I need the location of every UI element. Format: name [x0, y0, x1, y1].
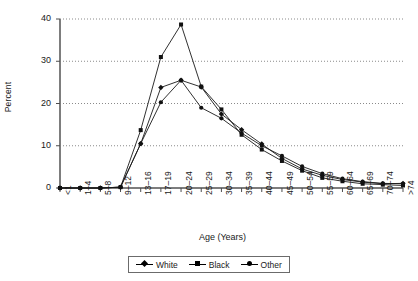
x-axis-tick-label: 13–16	[144, 171, 153, 195]
data-point	[78, 186, 82, 190]
y-axis-tick-label: 0	[27, 183, 51, 192]
data-point	[239, 131, 243, 135]
x-axis-title: Age (Years)	[40, 232, 405, 242]
data-point	[58, 186, 62, 190]
data-series-layer	[57, 22, 405, 190]
data-point	[280, 159, 284, 163]
data-point	[219, 107, 223, 111]
data-point	[179, 78, 183, 82]
series-line	[60, 24, 403, 188]
data-point	[159, 55, 163, 59]
data-point	[159, 100, 163, 104]
data-point	[139, 128, 143, 132]
x-axis-tick-label: 45–49	[286, 171, 295, 195]
x-axis-tick-label: 1–4	[84, 181, 93, 195]
legend-marker-square-icon	[189, 260, 206, 269]
legend-item-black[interactable]: Black	[189, 260, 230, 270]
data-point	[260, 144, 264, 148]
series-black	[58, 22, 405, 190]
y-axis-title: Percent	[3, 67, 13, 127]
gridlines	[60, 19, 403, 146]
x-axis-tick-label: 70–74	[386, 171, 395, 195]
x-axis-tick-label: >74	[407, 181, 416, 195]
data-point	[320, 176, 324, 180]
data-point	[300, 164, 304, 168]
data-point	[179, 22, 183, 26]
data-point	[300, 169, 304, 173]
x-axis-tick-label: 5–8	[104, 181, 113, 195]
data-point	[199, 85, 203, 89]
data-point	[260, 148, 264, 152]
data-point	[320, 172, 324, 176]
y-axis-tick-label: 30	[27, 56, 51, 65]
x-axis-tick-label: 30–34	[225, 171, 234, 195]
legend-marker-circle-icon	[241, 260, 258, 269]
x-axis-tick-label: 35–39	[245, 171, 254, 195]
y-axis-tick-label: 20	[27, 99, 51, 108]
x-axis-tick-label: 65–69	[366, 171, 375, 195]
chart-legend: WhiteBlackOther	[128, 256, 290, 273]
x-axis-tick-label: 40–44	[265, 171, 274, 195]
data-point	[139, 142, 143, 146]
axis-ticks	[56, 19, 403, 192]
x-axis-tick-label: <1	[64, 185, 73, 195]
y-axis-tick-label: 40	[27, 14, 51, 23]
legend-label: Black	[209, 260, 230, 270]
legend-item-other[interactable]: Other	[241, 260, 282, 270]
legend-marker-diamond-icon	[136, 260, 153, 269]
data-point	[340, 177, 344, 181]
legend-label: Other	[261, 260, 282, 270]
x-axis-tick-label: 25–29	[205, 171, 214, 195]
x-axis-tick-label: 50–54	[306, 171, 315, 195]
chart-figure: Percent Age (Years) 403020100 <11–45–89–…	[0, 0, 418, 281]
x-axis-tick-label: 60–64	[346, 171, 355, 195]
data-point	[158, 85, 163, 90]
legend-item-white[interactable]: White	[136, 260, 178, 270]
legend-label: White	[156, 260, 178, 270]
data-point	[219, 116, 223, 120]
x-axis-tick-label: 17–19	[164, 171, 173, 195]
data-point	[118, 185, 122, 189]
x-axis-tick-label: 55–59	[326, 171, 335, 195]
y-axis-tick-label: 10	[27, 141, 51, 150]
x-axis-tick-label: 9–12	[124, 176, 133, 195]
data-point	[280, 154, 284, 158]
x-axis-tick-label: 20–24	[185, 171, 194, 195]
data-point	[98, 186, 102, 190]
data-point	[401, 182, 405, 186]
data-point	[199, 106, 203, 110]
